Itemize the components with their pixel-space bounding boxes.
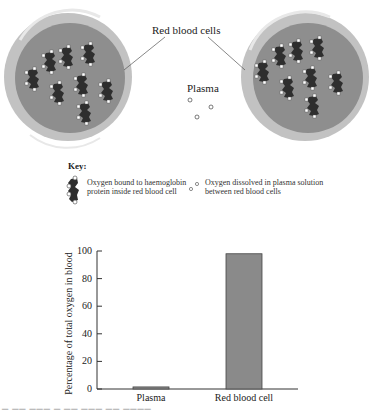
bar-red-blood-cell <box>226 254 262 389</box>
y-tick-label: 20 <box>72 355 92 366</box>
y-tick-label: 100 <box>72 245 92 256</box>
y-tick-label: 40 <box>72 328 92 339</box>
bar-chart <box>0 0 372 418</box>
y-tick-label: 0 <box>72 383 92 394</box>
caption-partial: ▔ ▔▔ ▔▔▔ ▔ ▔▔ ▔▔▔ ▔▔ ▔▔▔▔ <box>2 409 152 418</box>
y-tick-label: 80 <box>72 273 92 284</box>
bar-plasma <box>133 387 169 389</box>
y-tick-label: 60 <box>72 300 92 311</box>
x-category-label: Red blood cell <box>194 392 294 403</box>
x-category-label: Plasma <box>101 392 201 403</box>
